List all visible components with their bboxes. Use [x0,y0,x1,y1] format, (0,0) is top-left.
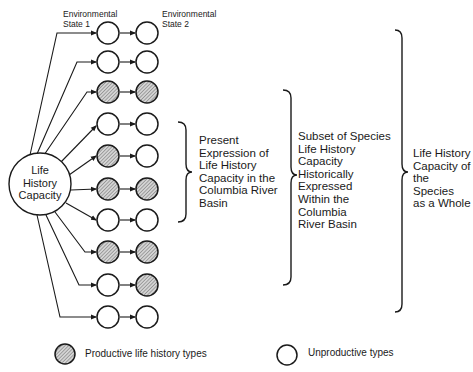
transition-arrows [120,33,135,317]
connector-row-3 [44,92,96,155]
legend-productive-icon [55,344,75,364]
bracket-species-whole-label: Life History Capacity of the Species as … [413,147,473,210]
state2-header: Environmental State 2 [162,10,216,29]
row-7-state2-unproductive-node [136,209,158,231]
row-5-state1-productive-node [97,145,119,167]
bracket-2-line: Life History [298,143,391,156]
row-3-state2-productive-node [136,81,158,103]
bracket-2-line: Subset of Species [298,130,391,143]
row-7-state1-unproductive-node [97,209,119,231]
connector-row-7 [66,203,96,220]
bracket-2-line: Historically [298,168,391,181]
bracket-species-whole [395,30,408,312]
state1-header: Environmental State 1 [63,10,117,29]
bracket-3-line: Life History [413,147,473,160]
row-10-state2-unproductive-node [136,306,158,328]
legend-unproductive-icon [277,345,297,365]
bracket-2-line: Expressed [298,180,391,193]
row-3-state1-productive-node [97,81,119,103]
row-6-state1-productive-node [97,178,119,200]
bracket-1-line: Capacity in the [199,172,278,185]
connector-row-10 [37,215,96,317]
bracket-3-line: Capacity of [413,160,473,173]
connector-row-6 [71,189,96,190]
center-node-line-1: Life [9,164,71,177]
state1-header-line-2: State 1 [63,20,117,30]
bracket-1-line: Columbia River [199,184,278,197]
bracket-present-expression-label: Present Expression of Life History Capac… [199,134,278,210]
row-8-state2-productive-node [136,241,158,263]
bracket-1-line: Life History [199,159,278,172]
row-9-state2-productive-node [136,274,158,296]
row-6-state2-productive-node [136,178,158,200]
bracket-historical-subset [283,90,297,285]
bracket-2-line: River Basin [298,218,391,231]
connector-row-5 [69,156,96,175]
bracket-1-line: Present [199,134,278,147]
state2-header-line-2: State 2 [162,20,216,30]
bracket-present-expression [178,122,192,222]
row-1-state2-unproductive-node [136,22,158,44]
connector-row-4 [60,126,96,163]
connector-row-2 [37,62,96,154]
connector-row-9 [46,215,96,285]
center-node-line-2: History [9,177,71,190]
row-5-state2-unproductive-node [136,145,158,167]
state-nodes [97,22,158,328]
bracket-2-line: Columbia [298,206,391,219]
row-8-state1-productive-node [97,241,119,263]
bracket-3-line: as a Whole [413,197,473,210]
row-4-state2-unproductive-node [136,113,158,135]
row-4-state1-unproductive-node [97,113,119,135]
row-2-state1-unproductive-node [97,51,119,73]
bracket-historical-subset-label: Subset of Species Life History Capacity … [298,130,391,231]
bracket-2-line: Within the [298,193,391,206]
bracket-1-line: Expression of [199,147,278,160]
center-node-line-3: Capacity [9,189,71,202]
legend-unproductive-label: Unproductive types [308,347,394,359]
row-9-state1-unproductive-node [97,274,119,296]
legend-productive-label: Productive life history types [85,348,207,360]
bracket-3-line: the Species [413,172,473,197]
row-2-state2-unproductive-node [136,51,158,73]
center-node-label: Life History Capacity [9,164,71,202]
bracket-1-line: Basin [199,197,278,210]
row-10-state1-unproductive-node [97,306,119,328]
bracket-2-line: Capacity [298,155,391,168]
